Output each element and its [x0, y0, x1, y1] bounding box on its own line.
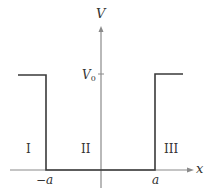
- y-axis-label: V: [96, 6, 107, 21]
- y-axis-arrow-icon: [99, 26, 104, 32]
- tick-label-a: a: [152, 173, 159, 187]
- square-well-diagram: V x V0 −a a I II III: [0, 0, 212, 196]
- x-axis-label: x: [196, 161, 204, 176]
- x-axis-arrow-icon: [187, 168, 194, 173]
- v0-label: V0: [82, 68, 96, 83]
- diagram-canvas: V x V0 −a a I II III: [0, 0, 212, 196]
- region-label-ii: II: [81, 142, 91, 156]
- region-label-i: I: [26, 142, 31, 156]
- v0-label-subscript: 0: [91, 74, 96, 83]
- tick-label-minus-a: −a: [36, 173, 53, 187]
- region-label-iii: III: [164, 142, 178, 156]
